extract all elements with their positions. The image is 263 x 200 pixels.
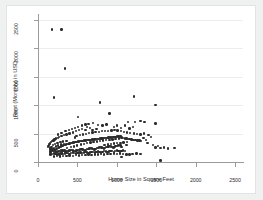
data-point (64, 130, 66, 132)
data-point (72, 131, 74, 133)
data-point (154, 122, 156, 124)
data-point (98, 131, 100, 133)
data-point (150, 136, 152, 138)
data-point (80, 143, 82, 145)
data-point (68, 154, 70, 156)
data-point (167, 147, 169, 149)
x-tick-mark (117, 163, 118, 167)
data-point (116, 153, 118, 155)
data-point (64, 67, 66, 69)
data-point (63, 149, 65, 151)
data-point (75, 130, 77, 132)
data-point (58, 154, 60, 156)
data-point (124, 150, 126, 152)
data-point (68, 132, 70, 134)
y-axis-title: Rent (Monthly) in USD (12, 61, 19, 117)
data-point (84, 129, 86, 131)
data-point (103, 144, 105, 146)
data-point (72, 155, 74, 157)
data-point (114, 138, 116, 140)
data-point (94, 153, 96, 155)
data-point (68, 129, 70, 131)
data-point (78, 154, 80, 156)
data-point (60, 143, 62, 145)
data-point (126, 141, 128, 143)
data-point (60, 135, 62, 137)
data-point (60, 28, 62, 30)
data-point (65, 140, 67, 142)
data-point (75, 154, 77, 156)
data-point (125, 144, 127, 146)
data-point (159, 147, 161, 149)
data-point (120, 156, 122, 158)
data-point (145, 139, 147, 141)
y-tick-mark (34, 77, 38, 78)
data-point (81, 124, 83, 126)
data-point (102, 139, 104, 141)
x-axis-line (38, 162, 244, 163)
data-point (81, 128, 83, 130)
data-point (107, 143, 109, 145)
data-point (124, 124, 126, 126)
data-point (132, 126, 134, 128)
data-point (83, 143, 85, 145)
data-point (101, 124, 103, 126)
data-point (51, 28, 53, 30)
plot-area (38, 14, 243, 162)
data-point (76, 144, 78, 146)
data-point (107, 130, 109, 132)
data-point (74, 127, 76, 129)
data-point (108, 139, 110, 141)
data-point (113, 142, 115, 144)
data-point (84, 154, 86, 156)
data-point (109, 153, 111, 155)
data-point (105, 123, 107, 125)
data-point (82, 133, 84, 135)
data-point (99, 140, 101, 142)
x-tick-mark (235, 163, 236, 167)
data-point (106, 153, 108, 155)
data-point (116, 129, 118, 131)
y-tick-mark (34, 20, 38, 21)
gridline (38, 77, 243, 78)
data-point (61, 151, 63, 153)
data-point (139, 120, 141, 122)
data-point (99, 101, 101, 103)
data-point (97, 124, 99, 126)
data-point (92, 141, 94, 143)
data-point (87, 123, 89, 125)
data-point (100, 153, 102, 155)
data-point (81, 154, 83, 156)
data-point (133, 132, 135, 134)
gridline (38, 105, 243, 106)
data-point (131, 153, 133, 155)
data-point (116, 124, 118, 126)
y-tick-mark (34, 105, 38, 106)
data-point (143, 132, 145, 134)
data-point (96, 140, 98, 142)
data-point (78, 129, 80, 131)
data-point (125, 153, 127, 155)
data-point (79, 134, 81, 136)
data-point (62, 155, 64, 157)
data-point (119, 152, 121, 154)
data-point (86, 126, 88, 128)
x-tick-mark (38, 163, 39, 167)
data-point (139, 153, 141, 155)
gridline (38, 48, 243, 49)
y-axis-line (38, 14, 39, 163)
data-point (97, 153, 99, 155)
data-point (101, 130, 103, 132)
data-point (128, 127, 130, 129)
data-point (104, 130, 106, 132)
data-point (65, 155, 67, 157)
data-point (53, 96, 55, 98)
data-point (113, 126, 115, 128)
data-point (113, 152, 115, 154)
data-point (105, 139, 107, 141)
data-point (71, 128, 73, 130)
data-point (140, 140, 142, 142)
data-point (111, 138, 113, 140)
x-tick-mark (77, 163, 78, 167)
y-tick-mark (34, 48, 38, 49)
